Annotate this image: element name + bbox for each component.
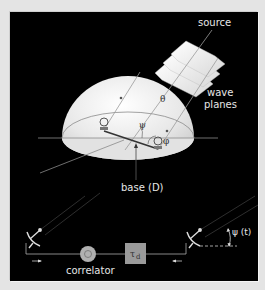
theta-label: θ [160, 94, 165, 104]
correlator-label: correlator [66, 265, 116, 276]
interferometer-diagram: source wave planes θ ψ φ base (D) [0, 0, 265, 290]
ground-rays [40, 193, 258, 237]
delay-tau-label: τ [130, 249, 135, 259]
phi-label: φ [163, 136, 169, 146]
antenna-right-icon [187, 229, 201, 248]
psi-t-label: ψ (t) [232, 227, 251, 237]
antenna-left-icon [27, 229, 41, 248]
source-label: source [198, 17, 231, 28]
delay-box: τ d [125, 243, 146, 264]
signal-direction-arrows [32, 260, 182, 263]
correlator-icon [80, 246, 96, 262]
signal-wire [26, 243, 186, 254]
wave-planes-label-line1: wave [207, 87, 233, 98]
psi-label: ψ [139, 120, 146, 130]
wave-planes-label-line2: planes [204, 99, 237, 110]
base-label: base (D) [121, 182, 164, 193]
delay-sub-label: d [136, 253, 141, 261]
